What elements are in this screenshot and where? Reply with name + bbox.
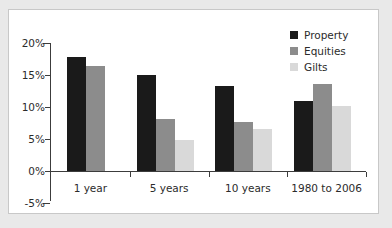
- y-tick-label: 0%: [5, 166, 45, 177]
- x-tick-label: 1 year: [51, 182, 130, 194]
- legend-item-property: Property: [290, 28, 348, 42]
- y-tick: [45, 171, 50, 172]
- legend-swatch-icon: [290, 63, 298, 71]
- y-tick: [45, 107, 50, 108]
- x-tick: [287, 172, 288, 177]
- x-tick: [366, 172, 367, 177]
- bar-equities-2: [234, 122, 253, 171]
- y-tick-label: 15%: [5, 70, 45, 81]
- x-tick-label: 5 years: [130, 182, 209, 194]
- bar-property-3: [294, 101, 313, 171]
- bar-property-2: [215, 86, 234, 171]
- x-tick: [130, 172, 131, 177]
- chart-panel: 20%15%10%5%0%-5% 1 year5 years10 years19…: [8, 9, 379, 214]
- y-tick-label: 5%: [5, 134, 45, 145]
- y-tick-label: -5%: [5, 198, 45, 209]
- bar-equities-3: [313, 84, 332, 171]
- chart-legend: PropertyEquitiesGilts: [290, 28, 348, 76]
- plot-area: 20%15%10%5%0%-5% 1 year5 years10 years19…: [9, 10, 380, 215]
- y-tick-label: 20%: [5, 38, 45, 49]
- y-tick: [45, 139, 50, 140]
- bar-equities-1: [156, 119, 175, 171]
- x-tick-label: 10 years: [209, 182, 288, 194]
- bar-gilts-3: [332, 106, 351, 171]
- bar-property-0: [67, 57, 86, 171]
- bar-gilts-1: [175, 140, 194, 171]
- y-tick-label: 10%: [5, 102, 45, 113]
- legend-swatch-icon: [290, 47, 298, 55]
- legend-label: Gilts: [304, 62, 328, 73]
- bar-equities-0: [86, 66, 105, 171]
- x-axis-line: [50, 171, 366, 172]
- legend-swatch-icon: [290, 31, 298, 39]
- legend-item-gilts: Gilts: [290, 60, 348, 74]
- legend-label: Property: [304, 30, 348, 41]
- x-tick: [209, 172, 210, 177]
- y-axis-line: [50, 43, 51, 201]
- x-tick-label: 1980 to 2006: [287, 182, 366, 194]
- legend-label: Equities: [304, 46, 346, 57]
- legend-item-equities: Equities: [290, 44, 348, 58]
- bar-property-1: [137, 75, 156, 171]
- bar-gilts-2: [253, 129, 272, 171]
- y-tick: [45, 75, 50, 76]
